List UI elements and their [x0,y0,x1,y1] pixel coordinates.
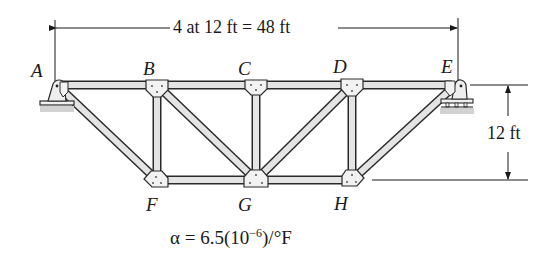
joint-g-plate [244,170,268,187]
height-dimension-label: 12 ft [487,124,521,142]
joint-label-g: G [238,195,252,214]
joint-c-plate [245,80,267,95]
joint-label-a: A [31,61,43,80]
thermal-coefficient: α = 6.5(10−6)/°F [170,227,292,247]
coefficient-prefix: α = 6.5(10 [170,227,249,248]
joint-label-d: D [333,57,347,76]
joint-label-f: F [146,195,158,214]
truss-drawing: .m { stroke: #2a2a2a; stroke-width: 9; s… [0,0,549,257]
joint-label-c: C [238,59,251,78]
joint-d-plate [341,79,363,96]
coefficient-exponent: −6 [249,226,262,240]
joint-label-h: H [334,194,348,213]
truss-members [62,85,452,180]
span-dimension-label: 4 at 12 ft = 48 ft [173,18,290,36]
joint-label-e: E [441,57,453,76]
joint-label-b: B [143,59,155,78]
coefficient-suffix: )/°F [262,227,292,248]
